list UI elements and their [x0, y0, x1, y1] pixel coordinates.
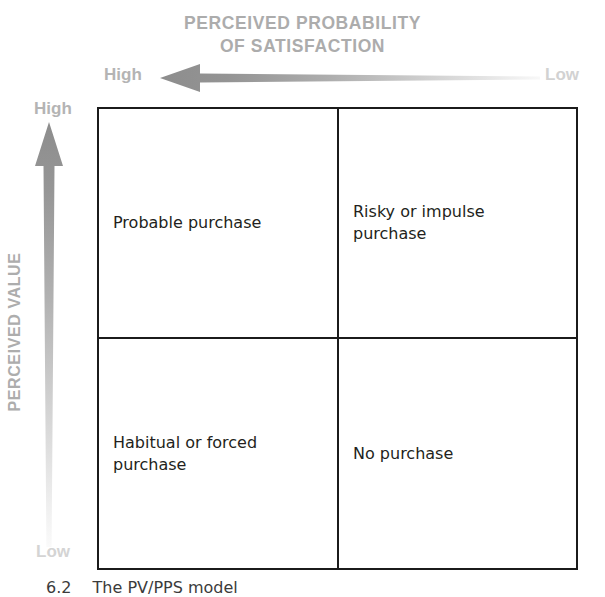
quadrant-bottom-left-label: Habitual or forced purchase	[113, 432, 323, 476]
left-arrow-gradient-icon	[160, 62, 540, 94]
quadrant-matrix: Probable purchase Risky or impulse purch…	[97, 107, 578, 570]
figure-caption-number: 6.2	[46, 578, 71, 597]
quadrant-bottom-right: No purchase	[339, 339, 576, 568]
figure-caption: 6.2 The PV/PPS model	[46, 578, 238, 597]
y-axis-high-label: High	[34, 99, 72, 119]
y-axis: High Low PERCEIVED VALUE	[0, 95, 95, 575]
quadrant-top-right: Risky or impulse purchase	[339, 109, 576, 339]
x-axis: High Low	[0, 62, 605, 96]
up-arrow-gradient-icon	[32, 122, 66, 547]
page-title-line-2: OF SATISFACTION	[0, 35, 605, 58]
page-title: PERCEIVED PROBABILITY OF SATISFACTION	[0, 12, 605, 58]
x-axis-low-label: Low	[545, 65, 579, 85]
figure-caption-text: The PV/PPS model	[93, 578, 238, 597]
quadrant-bottom-left: Habitual or forced purchase	[99, 339, 339, 568]
quadrant-top-left: Probable purchase	[99, 109, 339, 339]
x-axis-high-label: High	[104, 65, 142, 85]
y-axis-title: PERCEIVED VALUE	[6, 232, 24, 432]
quadrant-top-right-label: Risky or impulse purchase	[353, 201, 562, 245]
page-title-line-1: PERCEIVED PROBABILITY	[0, 12, 605, 35]
quadrant-top-left-label: Probable purchase	[113, 212, 261, 234]
quadrant-bottom-right-label: No purchase	[353, 443, 453, 465]
